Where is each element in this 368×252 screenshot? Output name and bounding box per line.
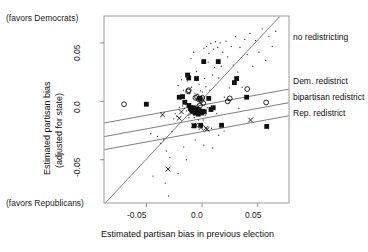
data-point-small-dot bbox=[179, 106, 180, 107]
data-point-small-dot bbox=[175, 113, 176, 114]
data-point-small-dot bbox=[193, 52, 194, 53]
data-point-small-dot bbox=[191, 87, 192, 88]
data-point-small-dot bbox=[186, 110, 187, 111]
fit-line-no-redistricting bbox=[104, 7, 289, 205]
data-point-small-dot bbox=[165, 182, 166, 183]
data-point-small-dot bbox=[249, 33, 250, 34]
data-point-cross-x bbox=[248, 118, 253, 123]
data-point-small-dot bbox=[186, 159, 187, 160]
data-point-filled-square bbox=[232, 80, 237, 85]
data-point-small-dot bbox=[275, 30, 276, 31]
data-point-small-dot bbox=[235, 36, 236, 37]
data-point-small-dot bbox=[209, 90, 210, 91]
data-point-small-dot bbox=[203, 144, 204, 145]
data-point-small-dot bbox=[219, 42, 220, 43]
data-point-small-dot bbox=[211, 128, 212, 129]
data-point-small-dot bbox=[188, 117, 189, 118]
data-point-small-dot bbox=[163, 139, 164, 140]
data-point-small-dot bbox=[208, 61, 209, 62]
data-point-small-dot bbox=[241, 87, 242, 88]
data-point-small-dot bbox=[169, 157, 170, 158]
data-point-small-dot bbox=[198, 84, 199, 85]
data-point-small-dot bbox=[222, 52, 223, 53]
data-point-small-dot bbox=[265, 60, 266, 61]
data-point-filled-square bbox=[234, 76, 239, 81]
points-small-dot bbox=[150, 28, 276, 197]
data-point-small-dot bbox=[204, 115, 205, 116]
data-point-small-dot bbox=[223, 130, 224, 131]
data-point-small-dot bbox=[252, 66, 253, 67]
data-point-filled-square bbox=[198, 123, 203, 128]
data-point-small-dot bbox=[239, 47, 240, 48]
data-point-small-dot bbox=[214, 67, 215, 68]
data-point-small-dot bbox=[237, 71, 238, 72]
data-point-small-dot bbox=[207, 107, 208, 108]
data-point-small-dot bbox=[173, 118, 174, 119]
data-point-small-dot bbox=[244, 39, 245, 40]
data-point-small-dot bbox=[177, 85, 178, 86]
data-point-small-dot bbox=[198, 119, 199, 120]
data-point-small-dot bbox=[216, 113, 217, 114]
data-point-small-dot bbox=[227, 56, 228, 57]
data-point-filled-square bbox=[182, 100, 187, 105]
fit-lines-group bbox=[104, 7, 289, 205]
data-point-filled-square bbox=[216, 59, 221, 64]
data-point-cross-x bbox=[179, 109, 184, 114]
data-point-open-circle bbox=[245, 87, 250, 92]
plot-content bbox=[104, 7, 289, 205]
data-point-small-dot bbox=[157, 136, 158, 137]
data-point-small-dot bbox=[187, 114, 188, 115]
data-point-small-dot bbox=[206, 46, 207, 47]
data-point-small-dot bbox=[218, 77, 219, 78]
data-point-small-dot bbox=[171, 131, 172, 132]
data-point-small-dot bbox=[181, 79, 182, 80]
data-point-filled-square bbox=[186, 76, 191, 81]
data-point-small-dot bbox=[233, 64, 234, 65]
data-point-filled-square bbox=[197, 96, 202, 101]
chart-figure: (favors Democrats) (favors Republicans) … bbox=[0, 0, 368, 252]
data-point-small-dot bbox=[215, 41, 216, 42]
data-point-cross-x bbox=[160, 112, 165, 117]
data-point-small-dot bbox=[168, 195, 169, 196]
data-point-small-dot bbox=[160, 143, 161, 144]
data-point-small-dot bbox=[152, 175, 153, 176]
fit-line-rep-redistrict bbox=[104, 116, 289, 150]
data-point-filled-square bbox=[206, 96, 211, 101]
data-point-small-dot bbox=[262, 28, 263, 29]
scatter-plot-canvas bbox=[0, 0, 368, 252]
data-point-filled-square bbox=[144, 102, 149, 107]
data-point-small-dot bbox=[247, 54, 248, 55]
data-point-small-dot bbox=[202, 91, 203, 92]
data-point-small-dot bbox=[204, 78, 205, 79]
data-point-small-dot bbox=[150, 133, 151, 134]
data-point-small-dot bbox=[229, 87, 230, 88]
data-point-small-dot bbox=[224, 97, 225, 98]
data-point-small-dot bbox=[268, 36, 269, 37]
data-point-small-dot bbox=[184, 108, 185, 109]
data-point-small-dot bbox=[225, 40, 226, 41]
data-point-small-dot bbox=[208, 53, 209, 54]
data-point-small-dot bbox=[182, 105, 183, 106]
data-point-small-dot bbox=[210, 43, 211, 44]
data-point-filled-square bbox=[192, 123, 197, 128]
data-point-small-dot bbox=[187, 80, 188, 81]
data-point-small-dot bbox=[194, 117, 195, 118]
data-point-small-dot bbox=[205, 86, 206, 87]
data-point-open-circle bbox=[122, 102, 127, 107]
data-point-small-dot bbox=[238, 108, 239, 109]
data-point-filled-square bbox=[202, 109, 207, 114]
data-point-small-dot bbox=[190, 58, 191, 59]
data-point-filled-square bbox=[219, 123, 224, 128]
points-filled-square bbox=[144, 59, 269, 129]
data-point-filled-square bbox=[194, 76, 199, 81]
data-point-small-dot bbox=[231, 46, 232, 47]
data-point-small-dot bbox=[218, 135, 219, 136]
data-point-small-dot bbox=[213, 49, 214, 50]
data-point-small-dot bbox=[258, 52, 259, 53]
data-point-filled-square bbox=[264, 124, 269, 129]
data-point-small-dot bbox=[202, 119, 203, 120]
data-point-small-dot bbox=[217, 47, 218, 48]
data-point-filled-square bbox=[201, 59, 206, 64]
data-point-small-dot bbox=[194, 139, 195, 140]
data-point-small-dot bbox=[194, 92, 195, 93]
